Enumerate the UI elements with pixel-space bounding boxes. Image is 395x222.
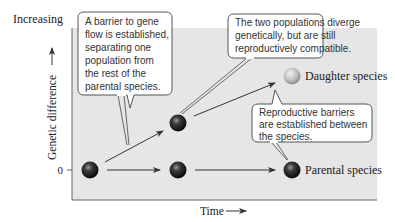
callout-barrier-line: population from — [85, 55, 154, 66]
node-end-parental — [284, 162, 301, 179]
parental-species-label: Parental species — [305, 163, 382, 177]
callout-diverge-line: genetically, but are still — [235, 30, 335, 41]
node-start-parental — [82, 162, 99, 179]
callout-reproductive-line: are established between — [259, 119, 367, 130]
callout-barrier-line: A barrier to gene — [85, 16, 159, 27]
node-diverging-population — [170, 115, 187, 132]
callout-reproductive-line: Reproductive barriers — [259, 107, 355, 118]
daughter-species-label: Daughter species — [305, 69, 388, 83]
callout-reproductive-line: the species. — [259, 131, 312, 142]
node-daughter-species — [284, 68, 301, 85]
callout-barrier-line: separating one — [85, 42, 152, 53]
callout-barrier-line: the rest of the — [85, 68, 147, 79]
y-axis-top-label: Increasing — [13, 12, 63, 26]
callout-diverge-line: The two populations diverge — [235, 17, 361, 28]
y-axis-zero-label: 0 — [58, 164, 64, 176]
node-mid-parental — [170, 162, 187, 179]
callout-barrier-line: parental species. — [85, 81, 161, 92]
callout-diverge-line: reproductively compatible. — [235, 43, 351, 54]
speciation-diagram: Increasing 0 Genetic difference Time Dau… — [0, 0, 395, 222]
y-axis-label: Genetic difference — [46, 75, 58, 160]
callout-barrier-line: flow is established, — [85, 29, 169, 40]
x-axis-label: Time — [200, 205, 224, 217]
